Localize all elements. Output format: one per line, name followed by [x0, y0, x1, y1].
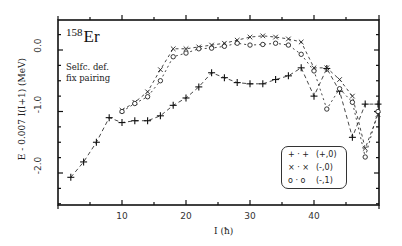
legend-item-minus1: o · o (-,1): [282, 174, 346, 187]
legend-item-minus0: × · × (-,0): [282, 161, 346, 174]
legend-label: (+,0): [316, 148, 337, 161]
legend: + · + (+,0) × · × (-,0) o · o (-,1): [281, 146, 347, 189]
y-tick-label: 0.0: [33, 39, 43, 53]
series-(-,1): [120, 41, 380, 159]
mass-number: 158: [66, 26, 83, 38]
element-symbol: Er: [84, 27, 100, 46]
y-axis-label: E - 0.007 I(I+1) (MeV): [17, 29, 27, 189]
x-axis-label: I (ħ): [214, 226, 233, 236]
x-tick-label: 20: [180, 211, 191, 221]
annotation-line-2: fix pairing: [66, 73, 110, 84]
y-tick-label: -1.0: [33, 95, 43, 113]
chart-plot-area: [0, 0, 402, 246]
nucleus-label: 158Er: [66, 26, 100, 47]
annotation-line-1: Selfc. def.: [66, 62, 110, 73]
legend-label: (-,0): [316, 161, 333, 174]
legend-item-plus0: + · + (+,0): [282, 148, 346, 161]
legend-symbol: o · o: [288, 174, 316, 187]
x-tick-label: 40: [308, 211, 319, 221]
annotation: Selfc. def. fix pairing: [66, 62, 110, 84]
x-tick-label: 10: [116, 211, 127, 221]
series-(-,0): [120, 34, 381, 151]
legend-symbol: × · ×: [288, 161, 316, 174]
legend-label: (-,1): [316, 174, 333, 187]
y-tick-label: -2.0: [33, 157, 43, 175]
legend-symbol: + · +: [288, 148, 316, 161]
x-tick-label: 30: [244, 211, 255, 221]
